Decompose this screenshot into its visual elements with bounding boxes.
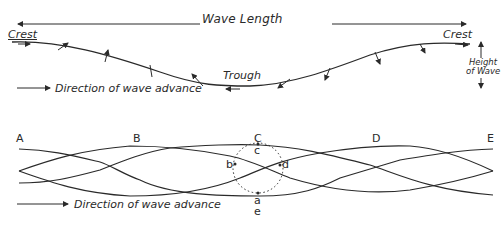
crest-right-label: Crest: [443, 29, 472, 40]
direction-label-top: Direction of wave advance: [55, 83, 202, 94]
height-of-wave-label: Height of Wave: [466, 58, 500, 76]
crest-left-label: Crest: [8, 29, 37, 40]
point-e-label: E: [487, 133, 494, 144]
orbit-point-d: d: [282, 159, 289, 170]
point-a-label: A: [16, 133, 24, 144]
direction-label-bottom: Direction of wave advance: [74, 199, 221, 210]
point-d-label: D: [372, 133, 380, 144]
wave-diagram: Wave Length Crest Crest Trough Height of…: [0, 0, 503, 233]
orbit-point-b: b: [226, 159, 233, 170]
orbit-point-c: c: [254, 145, 260, 156]
wave-length-label: Wave Length: [202, 13, 283, 25]
orbit-point-e: e: [254, 206, 261, 217]
point-c-label: C: [254, 133, 262, 144]
point-b-label: B: [133, 133, 141, 144]
trough-label: Trough: [223, 70, 261, 81]
